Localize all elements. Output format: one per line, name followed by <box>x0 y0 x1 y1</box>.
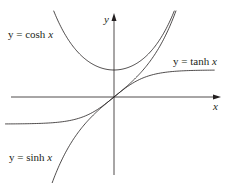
tanh-label-var: x <box>212 55 217 67</box>
sinh-label-var: x <box>47 151 52 163</box>
cosh-label-var: x <box>48 28 53 40</box>
cosh-label-text: y = cosh <box>8 28 48 40</box>
tanh-label-text: y = tanh <box>173 55 212 67</box>
sinh-label-text: y = sinh <box>9 151 47 163</box>
sinh-label: y = sinh x <box>9 152 52 163</box>
y-axis <box>112 13 117 175</box>
x-axis-label: x <box>213 101 218 112</box>
tanh-label: y = tanh x <box>173 56 217 67</box>
y-axis-label: y <box>104 14 109 25</box>
cosh-label: y = cosh x <box>8 29 53 40</box>
